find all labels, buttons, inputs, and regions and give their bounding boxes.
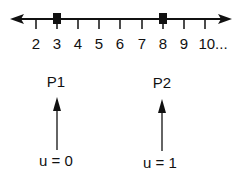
param-label-u1: u = 1: [143, 155, 177, 170]
tick-label-7: 7: [138, 36, 146, 51]
p1-arrowhead-icon: [53, 97, 61, 111]
axis-ticks: [36, 19, 205, 29]
tick-label-2: 2: [32, 36, 40, 51]
param-label-u0: u = 0: [39, 153, 73, 168]
tick-label-4: 4: [74, 36, 82, 51]
point-label-p2: P2: [153, 75, 171, 90]
tick-label-8: 8: [159, 36, 167, 51]
marker-square-8: [159, 13, 167, 24]
number-line-diagram: [0, 0, 243, 178]
tick-label-10: 10...: [198, 36, 227, 51]
tick-label-6: 6: [116, 36, 124, 51]
marker-square-3: [53, 13, 61, 24]
tick-label-5: 5: [95, 36, 103, 51]
point-label-p1: P1: [47, 74, 65, 89]
tick-label-3: 3: [53, 36, 61, 51]
tick-label-9: 9: [180, 36, 188, 51]
p2-arrowhead-icon: [158, 99, 166, 113]
